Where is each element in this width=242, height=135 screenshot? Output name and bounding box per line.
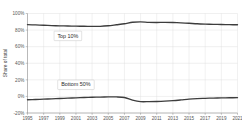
x-tick-label: 2003 (87, 116, 98, 121)
x-tick-label: 2005 (103, 116, 114, 121)
y-tick-label: -20% (14, 111, 25, 116)
x-tick-label: 2021 (232, 116, 242, 121)
x-tick-label: 2009 (135, 116, 146, 121)
y-axis-title: Share of total (3, 49, 8, 78)
x-tick-label: 2001 (71, 116, 82, 121)
chart-container: 100%80%60%40%20%0%-20% 19951997199920012… (0, 0, 242, 135)
x-tick-label: 2015 (184, 116, 195, 121)
x-tick-label: 1995 (22, 116, 33, 121)
annotation-label: Top 10% (57, 33, 78, 39)
annotation-top-10: Top 10% (54, 31, 82, 41)
x-tick-label: 2013 (168, 116, 179, 121)
y-tick-label: 40% (15, 61, 24, 66)
x-tick-label: 1999 (55, 116, 66, 121)
x-tick-label: 2017 (200, 116, 211, 121)
y-tick-label: 60% (15, 44, 24, 49)
annotation-bottom-50: Bottom 50% (58, 80, 95, 90)
x-tick-label: 2007 (119, 116, 130, 121)
x-tick-label: 2011 (152, 116, 162, 121)
x-tick-label: 1997 (39, 116, 50, 121)
x-tick-label: 2019 (216, 116, 227, 121)
annotation-label: Bottom 50% (61, 81, 91, 87)
chart-background (0, 0, 242, 135)
y-tick-label: 80% (15, 28, 24, 33)
y-tick-label: 0% (18, 94, 25, 99)
y-tick-label: 20% (15, 78, 24, 83)
y-tick-label: 100% (13, 11, 25, 16)
line-chart: 100%80%60%40%20%0%-20% 19951997199920012… (0, 0, 242, 135)
